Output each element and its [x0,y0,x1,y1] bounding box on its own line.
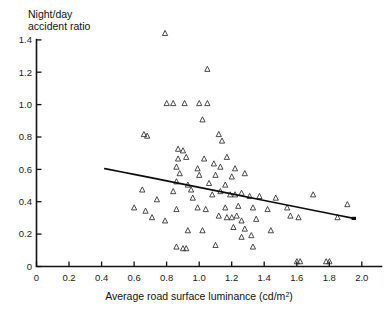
y-tick-label: 1.4 [19,34,32,45]
scatter-point [140,187,145,192]
scatter-point [182,100,187,105]
scatter-point [154,197,159,202]
x-tick-label: 1.2 [225,272,238,283]
scatter-point [242,171,247,176]
scatter-point [197,100,202,105]
scatter-point [213,172,218,177]
x-axis-title: Average road surface luminance (cd/m2) [105,290,293,302]
x-tick-label: 0.6 [127,272,140,283]
scatter-point [250,244,255,249]
scatter-point [202,156,207,161]
scatter-point [219,138,224,143]
scatter-point [185,228,190,233]
scatter-point [268,228,273,233]
scatter-point [218,164,223,169]
scatter-point [162,30,167,35]
x-tick-label: 0.2 [62,272,75,283]
scatter-point [224,215,229,220]
y-axis-title-line1: Night/day [28,8,73,20]
scatter-point [231,224,236,229]
scatter-point [190,195,195,200]
scatter-point [206,180,211,185]
scatter-point [239,234,244,239]
y-axis-title-line2: accident ratio [28,20,91,32]
scatter-point [180,148,185,153]
scatter-point [132,205,137,210]
scatter-point [200,228,205,233]
trendline [105,169,354,219]
x-tick-label: 0.4 [95,272,108,283]
scatter-point [216,131,221,136]
scatter-point [195,166,200,171]
scatter-point [177,171,182,176]
scatter-point [149,215,154,220]
scatter-point [171,100,176,105]
scatter-point [216,213,221,218]
scatter-point [249,233,254,238]
chart-canvas: Night/day accident ratio 0 0.2 0.4 0.6 0… [0,0,387,317]
scatter-point [203,206,208,211]
y-tick-label: 0.6 [19,164,32,175]
scatter-point [345,202,350,207]
scatter-point [273,195,278,200]
y-tick-label: 0.4 [19,196,32,207]
scatter-point [239,190,244,195]
scatter-point [254,216,259,221]
x-tick-label: 1.6 [290,272,303,283]
axis-lines [37,40,382,267]
x-axis-title-main: Average road surface luminance (cd/m [105,290,285,302]
trendline-endpoint-marker [352,217,356,220]
scatter-point [223,205,228,210]
x-tick-label: 1.8 [323,272,336,283]
scatter-point [175,146,180,151]
scatter-point [234,213,239,218]
scatter-point [174,244,179,249]
x-tick-label: 0.8 [160,272,173,283]
scatter-data-layer [132,30,350,263]
y-tick-label: 1.0 [19,99,32,110]
scatter-point [213,242,218,247]
scatter-point [171,189,176,194]
scatter-point [265,206,270,211]
scatter-point [164,100,169,105]
scatter-point [211,161,216,166]
scatter-point [288,213,293,218]
scatter-point [224,154,229,159]
x-tick-label: 2.0 [355,272,368,283]
y-tick-label: 1.2 [19,67,32,78]
x-tick-label: 0 [34,272,39,283]
scatter-point [143,208,148,213]
scatter-point [175,156,180,161]
scatter-point [210,192,215,197]
scatter-point [205,100,210,105]
night-day-accident-ratio-scatter-chart: Night/day accident ratio 0 0.2 0.4 0.6 0… [0,0,387,317]
scatter-point [236,203,241,208]
x-axis-tick-labels: 0 0.2 0.4 0.6 0.8 1.0 1.2 1.4 1.6 1.8 2.… [34,272,369,283]
scatter-point [296,215,301,220]
scatter-point [195,205,200,210]
scatter-point [174,206,179,211]
scatter-point [250,205,255,210]
scatter-point [197,172,202,177]
scatter-point [311,192,316,197]
x-tick-label: 1.0 [193,272,206,283]
scatter-point [232,166,237,171]
x-tick-label: 1.4 [258,272,271,283]
y-axis-tick-labels: 0 0.2 0.4 0.6 0.8 1.0 1.2 1.4 [19,34,32,272]
scatter-point [257,193,262,198]
scatter-point [205,66,210,71]
scatter-point [239,218,244,223]
y-tick-label: 0.8 [19,131,32,142]
scatter-point [200,117,205,122]
y-tick-label: 0 [27,261,32,272]
scatter-point [229,174,234,179]
scatter-point [223,182,228,187]
scatter-point [162,218,167,223]
scatter-point [229,215,234,220]
scatter-point [189,187,194,192]
y-tick-label: 0.2 [19,228,32,239]
scatter-point [184,154,189,159]
scatter-point [174,164,179,169]
x-axis-title-tail: ) [289,290,293,302]
scatter-point [242,226,247,231]
